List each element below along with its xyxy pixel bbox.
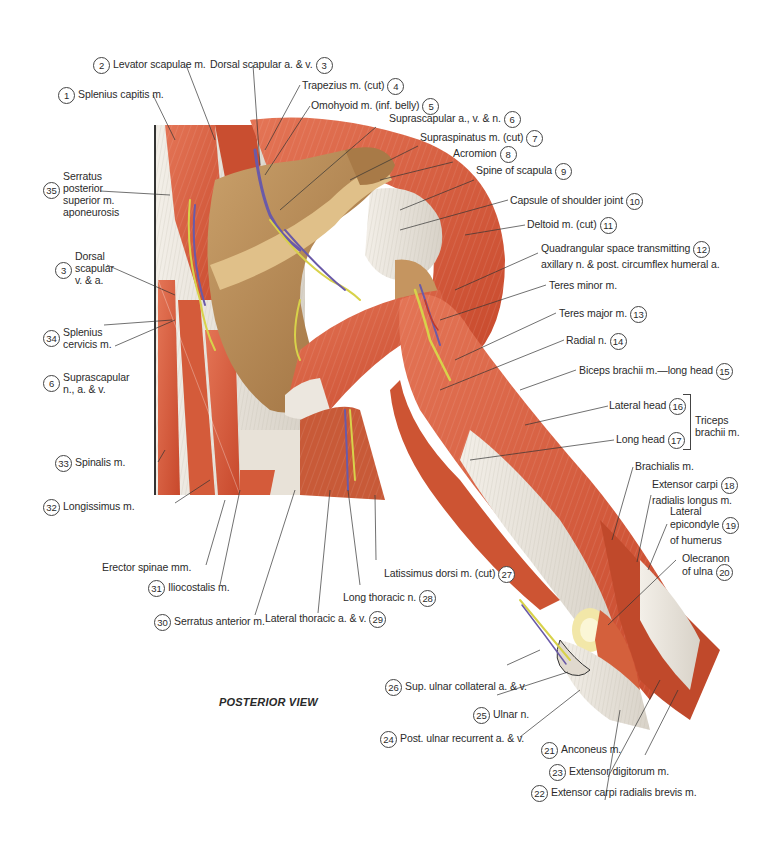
callout-number: 14	[610, 333, 627, 350]
callout-number: 34	[43, 330, 60, 347]
callout-number: 27	[498, 566, 515, 583]
callout-number: 28	[419, 590, 436, 607]
label-spine-of-scapula: Spine of scapula9	[476, 163, 575, 180]
label-splenius-capitis: 1Splenius capitis m.	[55, 87, 164, 104]
view-title: POSTERIOR VIEW	[219, 696, 318, 708]
label-deltoid: Deltoid m. (cut)11	[527, 217, 620, 234]
callout-number: 3	[55, 262, 72, 279]
callout-number: 6	[504, 111, 521, 128]
callout-number: 19	[722, 517, 739, 534]
callout-number: 35	[43, 182, 60, 199]
callout-number: 31	[148, 580, 165, 597]
label-suprascapular-top: Suprascapular a., v. & n.6	[389, 111, 524, 128]
label-dorsal-scapular-left: 3Dorsalscapularv. & a.	[52, 250, 114, 286]
callout-number: 29	[369, 611, 386, 628]
label-iliocostalis: 31Iliocostalis m.	[145, 580, 230, 597]
label-teres-minor: Teres minor m.	[549, 279, 617, 291]
label-splenius-cervicis: 34Spleniuscervicis m.	[40, 326, 111, 350]
callout-number: 30	[154, 614, 171, 631]
label-acromion: Acromion8	[453, 146, 520, 163]
callout-number: 10	[626, 193, 643, 210]
label-radial-nerve: Radial n.14	[566, 333, 630, 350]
callout-number: 3	[316, 57, 333, 74]
label-olecranon: Olecranonof ulna20	[682, 552, 736, 581]
callout-number: 32	[43, 499, 60, 516]
label-long-head: Long head17	[616, 432, 688, 449]
label-brachialis: Brachialis m.	[635, 460, 694, 472]
callout-number: 2	[93, 57, 110, 74]
label-post-ulnar-recurrent: 24Post. ulnar recurrent a. & v.	[377, 731, 524, 748]
callout-number: 4	[387, 78, 404, 95]
anatomy-figure: 1Splenius capitis m. 2Levator scapulae m…	[0, 0, 768, 841]
anatomy-illustration	[0, 0, 768, 841]
triceps-bracket	[683, 394, 691, 450]
label-biceps-long-head: Biceps brachii m.—long head15	[579, 363, 736, 380]
callout-number: 9	[555, 163, 572, 180]
label-lateral-epicondyle: Lateralepicondyle19of humerus	[670, 505, 742, 546]
callout-number: 23	[549, 764, 566, 781]
label-triceps-group: Tricepsbrachii m.	[695, 414, 740, 438]
callout-number: 1	[58, 87, 75, 104]
label-levator-scapulae: 2Levator scapulae m.	[90, 57, 206, 74]
label-serratus-anterior: 30Serratus anterior m.	[151, 614, 265, 631]
label-suprascapular-left: 6Suprascapularn., a. & v.	[40, 371, 129, 395]
label-ulnar-nerve: 25Ulnar n.	[470, 707, 529, 724]
label-anconeus: 21Anconeus m.	[538, 742, 621, 759]
callout-number: 25	[473, 707, 490, 724]
label-dorsal-scapular-top: Dorsal scapular a. & v.3	[210, 57, 336, 74]
label-sup-ulnar-collateral: 26Sup. ulnar collateral a. & v.	[382, 679, 527, 696]
label-quadrangular-space: Quadrangular space transmitting12axillar…	[541, 241, 720, 270]
label-lateral-thoracic: Lateral thoracic a. & v.29	[265, 611, 389, 628]
label-teres-major: Teres major m.13	[559, 306, 650, 323]
callout-number: 7	[526, 130, 543, 147]
callout-number: 33	[55, 455, 72, 472]
label-ecrb: 22Extensor carpi radialis brevis m.	[528, 785, 697, 802]
callout-number: 26	[385, 679, 402, 696]
callout-number: 12	[693, 241, 710, 258]
label-erector-spinae: Erector spinae mm.	[102, 561, 191, 573]
callout-number: 8	[500, 146, 517, 163]
callout-number: 22	[531, 785, 548, 802]
callout-number: 15	[716, 363, 733, 380]
label-capsule: Capsule of shoulder joint10	[510, 193, 646, 210]
label-lateral-head: Lateral head16	[609, 398, 689, 415]
label-ecrl: Extensor carpi18radialis longus m.	[652, 477, 741, 506]
label-supraspinatus: Supraspinatus m. (cut)7	[420, 130, 546, 147]
label-extensor-digitorum: 23Extensor digitorum m.	[546, 764, 669, 781]
label-longissimus: 32Longissimus m.	[40, 499, 135, 516]
label-serratus-posterior-superior: 35Serratusposteriorsuperior m.aponeurosi…	[40, 170, 119, 218]
callout-number: 6	[43, 375, 60, 392]
label-trapezius: Trapezius m. (cut)4	[302, 78, 407, 95]
label-latissimus-dorsi: Latissimus dorsi m. (cut)27	[384, 566, 518, 583]
callout-number: 13	[630, 306, 647, 323]
callout-number: 18	[721, 477, 738, 494]
label-spinalis: 33Spinalis m.	[52, 455, 125, 472]
callout-number: 20	[716, 564, 733, 581]
callout-number: 24	[380, 731, 397, 748]
callout-number: 11	[600, 217, 617, 234]
callout-number: 21	[541, 742, 558, 759]
label-long-thoracic: Long thoracic n.28	[343, 590, 439, 607]
